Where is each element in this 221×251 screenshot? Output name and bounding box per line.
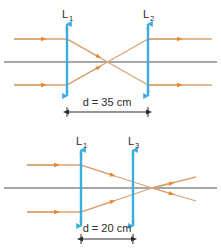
ray-lower-converging-arrow bbox=[81, 201, 113, 212]
bottom-diagram: L 1 L 3 d = 20 cm bbox=[4, 135, 217, 244]
ray-diagram-canvas: L 1 L 2 d = 35 cm bbox=[0, 0, 221, 251]
lens-L1-subscript: 1 bbox=[83, 141, 87, 150]
lens-L1-subscript: 1 bbox=[69, 14, 73, 23]
dimension-bottom: d = 20 cm bbox=[81, 222, 133, 244]
lens-L1-label: L bbox=[62, 8, 68, 20]
dimension-label-top: d = 35 cm bbox=[83, 96, 132, 108]
ray-upper-converging-arrow bbox=[67, 39, 99, 57]
ray-lower-converging-arrow bbox=[67, 67, 99, 85]
lens-L3-label: L bbox=[128, 135, 134, 147]
ray-lower-outgoing-arrow bbox=[152, 188, 172, 194]
lens-L3-subscript: 3 bbox=[135, 141, 139, 150]
lens-L2-subscript: 2 bbox=[150, 14, 154, 23]
ray-diagram-figure: L 1 L 2 d = 35 cm bbox=[0, 0, 221, 251]
top-diagram: L 1 L 2 d = 35 cm bbox=[4, 8, 217, 117]
lens-L1-label: L bbox=[76, 135, 82, 147]
dimension-top: d = 35 cm bbox=[67, 96, 148, 117]
dimension-label-bottom: d = 20 cm bbox=[83, 222, 132, 234]
ray-upper-converging-arrow bbox=[81, 165, 113, 175]
lens-L2-label: L bbox=[143, 8, 149, 20]
